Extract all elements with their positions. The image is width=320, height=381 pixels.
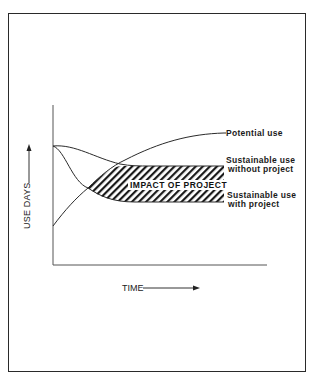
impact-of-project-label: IMPACT OF PROJECT [128, 180, 229, 190]
label-with-project-line2: with project [228, 199, 279, 209]
y-arrow-head-icon [27, 144, 32, 151]
label-potential-use: Potential use [226, 128, 283, 138]
x-arrow-head-icon [193, 286, 200, 291]
curve-sustainable-without-project [53, 146, 224, 166]
y-axis-label: USE DAYS [22, 183, 32, 229]
label-without-project-line2: without project [228, 164, 293, 174]
x-axis-label: TIME [122, 283, 144, 293]
